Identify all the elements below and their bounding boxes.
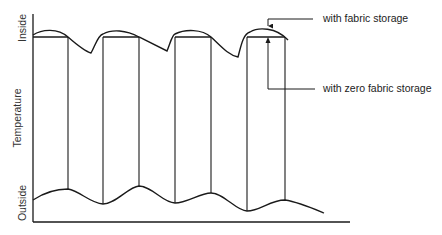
annotation-with-fabric-storage: with fabric storage xyxy=(323,12,408,24)
annotation-with-zero-fabric-storage: with zero fabric storage xyxy=(323,82,432,94)
outside-temperature-curve xyxy=(33,186,324,213)
annotation-leaders xyxy=(266,19,316,89)
temperature-diagram xyxy=(0,0,442,235)
inside-temperature-curve xyxy=(33,29,288,57)
axes xyxy=(33,14,350,222)
y-axis-title: Temperature xyxy=(11,89,23,148)
arrow-up-icon xyxy=(266,37,271,43)
occupancy-block-walls xyxy=(68,37,285,211)
leader-with-zero-fabric-storage xyxy=(268,40,315,89)
y-axis-top-label: Inside xyxy=(16,14,28,42)
leader-with-fabric-storage xyxy=(268,19,313,26)
y-axis-bottom-label: Outside xyxy=(16,185,28,221)
